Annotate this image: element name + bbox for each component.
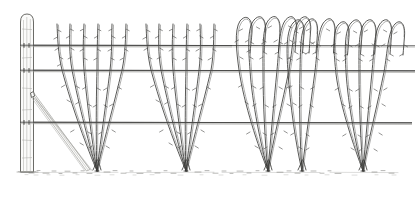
trellis-illustration: Trellised cane fruit training system pen… bbox=[0, 0, 415, 197]
illustration-background bbox=[0, 0, 415, 197]
illustration-canvas bbox=[0, 0, 415, 197]
